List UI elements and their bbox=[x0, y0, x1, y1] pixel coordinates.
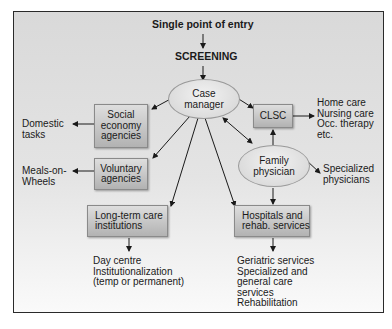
single-point-of-entry-label: Single point of entry bbox=[152, 19, 254, 30]
case-manager-node: Case manager bbox=[168, 79, 240, 119]
specialized-physicians-output: Specialized physicians bbox=[323, 164, 374, 185]
screening-label: SCREENING bbox=[175, 51, 237, 62]
clsc-node: CLSC bbox=[253, 104, 293, 128]
hospitals-rehab-services-node: Hospitals and rehab. services bbox=[234, 205, 310, 237]
family-physician-node: Family physician bbox=[238, 145, 310, 187]
meals-on-wheels-output: Meals-on- Wheels bbox=[22, 166, 66, 187]
clsc-services-output: Home care Nursing care Occ. therapy etc. bbox=[317, 98, 374, 140]
long-term-care-institutions-node: Long-term care institutions bbox=[87, 205, 168, 237]
long-term-care-services-output: Day centre Institutionalization (temp or… bbox=[93, 256, 184, 288]
social-economy-agencies-node: Social economy agencies bbox=[94, 104, 148, 148]
voluntary-agencies-node: Voluntary agencies bbox=[94, 158, 148, 190]
domestic-tasks-output: Domestic tasks bbox=[22, 119, 64, 140]
hospital-services-output: Geriatric services Specialized and gener… bbox=[237, 256, 314, 309]
